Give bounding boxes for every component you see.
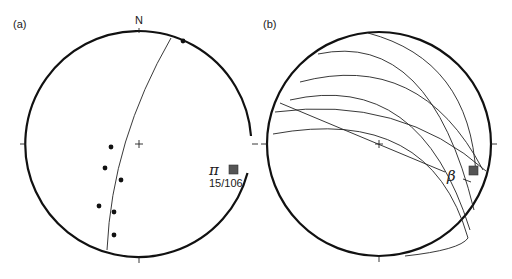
pole-point: [112, 233, 117, 238]
stereonet-figure: (a) N π 15/106 (b): [0, 0, 512, 279]
pole-point: [103, 166, 108, 171]
beta-axis-line: [280, 103, 445, 172]
panel-a-label: (a): [13, 18, 26, 30]
panel-a: (a) N π 15/106: [13, 14, 258, 263]
pole-point: [112, 210, 117, 215]
great-circle: [368, 33, 476, 175]
panel-b: (b) β: [261, 18, 497, 262]
great-circle: [275, 109, 486, 171]
bedding-poles: [97, 39, 186, 238]
pi-axis-marker: [229, 165, 238, 174]
beta-axis-line-tail: [463, 179, 471, 182]
pi-axis-value: 15/106: [209, 177, 243, 189]
pole-point: [109, 145, 114, 150]
pole-point: [181, 39, 186, 44]
pole-point: [119, 178, 124, 183]
beta-symbol: β: [446, 167, 456, 185]
panel-b-label: (b): [263, 18, 276, 30]
north-label: N: [135, 14, 143, 26]
great-circle: [273, 129, 468, 256]
pole-point: [97, 204, 102, 209]
beta-axis-marker: [469, 166, 478, 175]
